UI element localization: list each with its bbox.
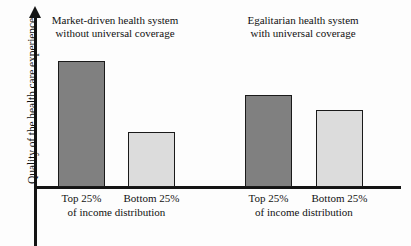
group-heading-market-driven: Market-driven health system without univ… xyxy=(40,14,190,39)
bar-group1-top25 xyxy=(245,95,292,187)
x-tick-label-group1-bottom25: Bottom 25% xyxy=(300,192,379,204)
x-tick-label-group1-top25: Top 25% xyxy=(229,192,308,204)
bar-group1-bottom25 xyxy=(316,110,363,187)
bar-group0-top25 xyxy=(58,61,105,187)
group-heading-line-1: Egalitarian health system xyxy=(228,14,378,27)
group-heading-line-1: Market-driven health system xyxy=(40,14,190,27)
x-axis-sublabel-group0: of income distribution xyxy=(38,206,195,218)
group-heading-egalitarian: Egalitarian health system with universal… xyxy=(228,14,378,39)
group-heading-line-2: with universal coverage xyxy=(228,27,378,40)
x-tick-label-group0-top25: Top 25% xyxy=(42,192,121,204)
y-axis-title: Quality of the health care experience xyxy=(26,6,38,196)
group-heading-line-2: without universal coverage xyxy=(40,27,190,40)
x-tick-label-group0-bottom25: Bottom 25% xyxy=(112,192,191,204)
x-axis-sublabel-group1: of income distribution xyxy=(225,206,383,218)
bar-chart-figure: Quality of the health care experience Ma… xyxy=(0,0,411,246)
bar-group0-bottom25 xyxy=(128,132,175,187)
